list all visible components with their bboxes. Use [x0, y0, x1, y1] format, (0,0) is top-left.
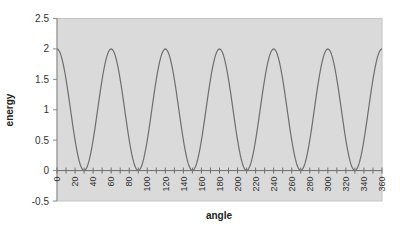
x-tick-label: 140 [179, 177, 189, 192]
x-tick-label: 160 [197, 177, 207, 192]
x-tick-label: 60 [106, 177, 116, 187]
x-tick-label: 200 [233, 177, 243, 192]
x-tick-label: 120 [161, 177, 171, 192]
x-tick-label: 100 [142, 177, 152, 192]
x-tick-label: 180 [215, 177, 225, 192]
x-tick-label: 20 [70, 177, 80, 187]
x-tick-label: 260 [287, 177, 297, 192]
y-axis-title: energy [4, 93, 15, 126]
y-tick-label: 1.5 [35, 74, 49, 85]
y-tick-label: 2 [43, 43, 49, 54]
x-tick-label: 300 [323, 177, 333, 192]
x-tick-label: 360 [377, 177, 387, 192]
x-tick-label: 320 [341, 177, 351, 192]
x-tick-label: 280 [305, 177, 315, 192]
x-axis-title: angle [206, 210, 233, 221]
line-chart: -0.500.511.522.5 02040608010012014016018… [0, 0, 401, 229]
y-tick-label: -0.5 [32, 196, 50, 207]
x-tick-label: 40 [88, 177, 98, 187]
y-tick-label: 1 [43, 104, 49, 115]
x-tick-label: 80 [124, 177, 134, 187]
y-tick-label: 0 [43, 165, 49, 176]
x-tick-label: 0 [52, 177, 62, 182]
plot-area [57, 19, 382, 202]
x-tick-label: 220 [251, 177, 261, 192]
x-tick-label: 340 [359, 177, 369, 192]
y-tick-label: 0.5 [35, 135, 49, 146]
x-tick-label: 240 [269, 177, 279, 192]
y-tick-label: 2.5 [35, 13, 49, 24]
